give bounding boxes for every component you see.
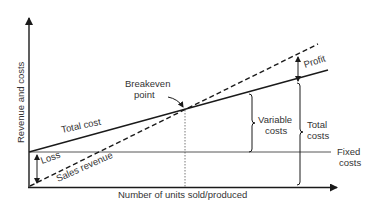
y-axis-label: Revenue and costs <box>15 61 26 143</box>
breakeven-pointer-arrow <box>168 97 183 107</box>
breakeven-label-line1: Breakeven <box>125 78 170 89</box>
loss-label: Loss <box>39 149 62 166</box>
sales-revenue-label: Sales revenue <box>54 149 114 184</box>
total-costs-label-line1: Total <box>307 119 327 130</box>
total-costs-brace <box>297 83 303 185</box>
total-cost-line <box>29 70 328 152</box>
variable-costs-label-line1: Variable <box>258 114 292 125</box>
breakeven-diagram: Revenue and costs Number of units sold/p… <box>0 0 383 209</box>
fixed-costs-label-line1: Fixed <box>337 146 360 157</box>
fixed-costs-label-line2: costs <box>339 157 361 168</box>
profit-label: Profit <box>302 52 327 69</box>
variable-costs-brace <box>249 94 255 152</box>
breakeven-label-line2: point <box>134 89 155 100</box>
total-cost-label: Total cost <box>60 116 102 135</box>
total-costs-label-line2: costs <box>307 130 329 141</box>
x-axis-label: Number of units sold/produced <box>118 189 247 200</box>
variable-costs-label-line2: costs <box>265 125 287 136</box>
